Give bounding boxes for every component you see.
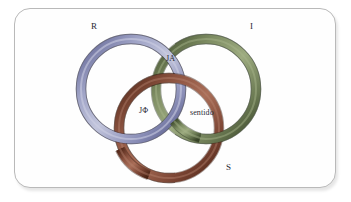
ring-label-real: R: [91, 22, 97, 31]
borromean-rings-stage: [14, 8, 336, 188]
ring-label-imaginary: I: [250, 22, 253, 31]
region-label-ja: JA: [166, 55, 175, 63]
borromean-rings-svg: [14, 8, 336, 188]
region-label-jphi: JΦ: [139, 107, 148, 115]
diagram-screenshot: R I S JA JΦ sentido: [0, 0, 351, 202]
region-label-sentido: sentido: [190, 109, 214, 117]
ring-symbolic-bottom-tip: [120, 149, 149, 175]
ring-label-symbolic: S: [226, 163, 231, 172]
